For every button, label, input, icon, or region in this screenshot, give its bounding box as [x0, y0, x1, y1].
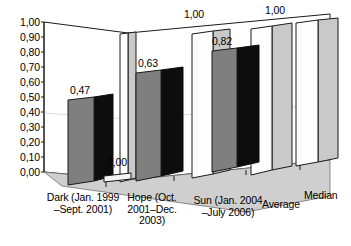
bar-group-median [296, 18, 338, 166]
bar-value-sun [212, 45, 259, 172]
y-tick-label-0-20: 0,20 [6, 137, 40, 147]
depth-label-median: Median [304, 190, 338, 202]
bar-value-hope [136, 67, 183, 181]
value-label-zero: 0,00 [99, 157, 135, 168]
category-label-hope: Hope (Oct. 2001–Dec. 2003) [118, 192, 186, 227]
bar-value-dark-front [68, 97, 94, 185]
bar-median-sun-side [318, 18, 338, 162]
y-tick-label-0-80: 0,80 [6, 47, 40, 57]
y-tick-label-0-70: 0,70 [6, 62, 40, 72]
bar-value-hope-front [136, 70, 161, 181]
y-tick-label-0-90: 0,90 [6, 32, 40, 42]
y-tick-label-0-40: 0,40 [6, 107, 40, 117]
bar-average-sun-front [192, 31, 213, 178]
bar-value-sun-side [237, 45, 259, 167]
value-label-hope: 0,63 [130, 58, 166, 69]
y-tick-label-0-00: 0,00 [6, 167, 40, 177]
bar-value-hope-side [161, 67, 183, 176]
bar-average-median-col-side [272, 23, 292, 170]
bar-value-dark [68, 94, 113, 185]
value-label-average: 1,00 [176, 9, 212, 20]
value-label-dark: 0,47 [62, 85, 98, 96]
y-tick-label-0-30: 0,30 [6, 122, 40, 132]
bar-median-sun-front [296, 20, 318, 166]
bar-median-sun [296, 18, 338, 166]
y-tick-label-0-60: 0,60 [6, 77, 40, 87]
y-axis [41, 22, 44, 172]
value-label-sun: 0,82 [204, 36, 240, 47]
y-tick-label-1-00: 1,00 [6, 17, 40, 27]
value-label-median: 1,00 [257, 5, 293, 16]
depth-label-average: Average [262, 199, 300, 211]
bar-value-sun-front [212, 48, 237, 172]
y-tick-label-0-10: 0,10 [6, 152, 40, 162]
y-tick-label-0-50: 0,50 [6, 92, 40, 102]
bar-chart-3d: 1,00 0,90 0,80 0,70 0,60 0,50 0,40 0,30 … [0, 0, 351, 246]
